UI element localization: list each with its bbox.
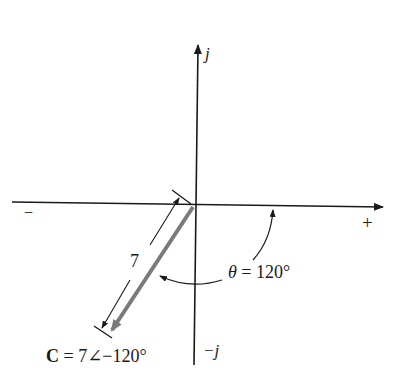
phasor-diagram (0, 0, 399, 382)
angle-theta-label: θ = 120° (228, 263, 290, 281)
positive-real-label: + (362, 213, 373, 232)
angle-arc-right (253, 210, 273, 260)
phasor-name: C (46, 346, 59, 366)
theta-value: = 120° (241, 262, 290, 282)
dimension-tick-start (172, 190, 191, 204)
phasor-polar-form: = 7∠−120° (64, 346, 147, 366)
magnitude-label: 7 (130, 252, 139, 270)
theta-symbol: θ (228, 262, 237, 282)
negative-imaginary-label: −j (203, 342, 219, 359)
dimension-tick-end (94, 326, 112, 338)
positive-imaginary-label: j (205, 45, 210, 62)
phasor-expression: C = 7∠−120° (46, 347, 147, 365)
negative-real-label: − (24, 205, 33, 221)
angle-arc-left (160, 276, 222, 284)
phasor-c-arrow (112, 207, 193, 330)
real-axis (12, 202, 383, 207)
